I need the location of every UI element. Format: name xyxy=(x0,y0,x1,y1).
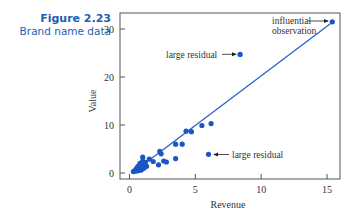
data-point xyxy=(206,152,211,157)
annotation-residual-lower: large residual xyxy=(232,150,284,160)
data-point xyxy=(156,162,161,167)
y-axis-label: Value xyxy=(87,89,98,112)
data-point xyxy=(164,159,169,164)
data-point xyxy=(330,19,335,24)
scatter-chart: 0 10 20 30 Value 0 5 10 15 Revenue influ… xyxy=(0,0,359,213)
annotation-influential: influential xyxy=(272,16,311,26)
annotation-influential: observation xyxy=(272,26,317,36)
data-point xyxy=(199,123,204,128)
data-point xyxy=(173,142,178,147)
x-tick-label: 0 xyxy=(127,184,132,195)
data-point xyxy=(189,129,194,134)
y-tick-label: 30 xyxy=(104,24,114,35)
data-point xyxy=(180,142,185,147)
x-tick-label: 15 xyxy=(322,184,332,195)
y-tick-label: 20 xyxy=(104,72,114,83)
annotation-residual-upper: large residual xyxy=(166,50,218,60)
x-axis-label: Revenue xyxy=(211,199,247,210)
data-point xyxy=(140,155,145,160)
data-point xyxy=(184,129,189,134)
data-point xyxy=(238,52,243,57)
data-point xyxy=(144,164,149,169)
data-point xyxy=(159,151,164,156)
y-tick-label: 0 xyxy=(109,168,114,179)
x-tick-label: 10 xyxy=(256,184,266,195)
data-point xyxy=(173,156,178,161)
y-axis xyxy=(120,29,125,173)
data-point xyxy=(151,159,156,164)
data-point xyxy=(209,121,214,126)
y-tick-label: 10 xyxy=(104,120,114,131)
x-tick-label: 5 xyxy=(193,184,198,195)
x-axis xyxy=(130,174,328,179)
plot-frame xyxy=(120,13,340,179)
